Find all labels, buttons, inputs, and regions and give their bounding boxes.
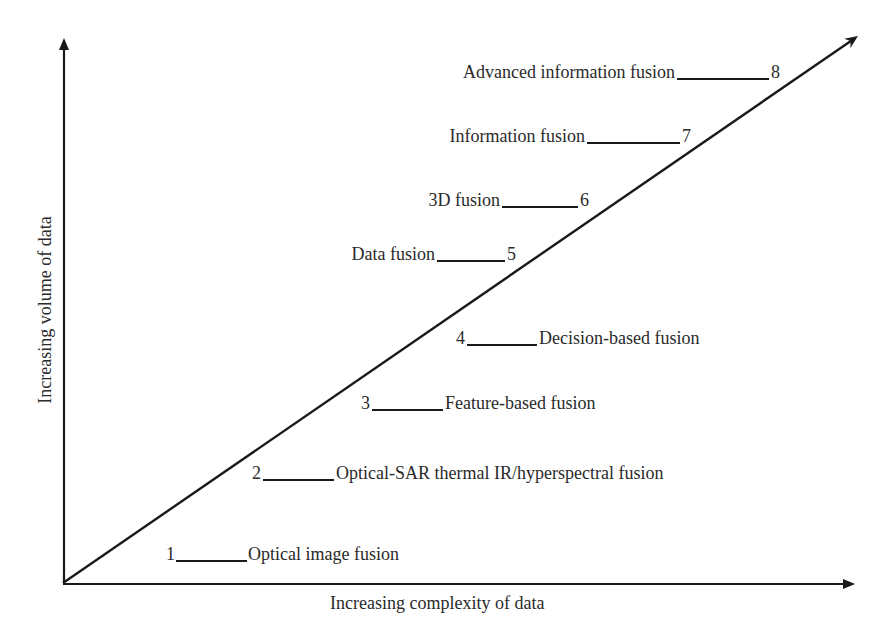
- diagram-graphics: [0, 0, 889, 644]
- y-axis-arrowhead-icon: [59, 38, 69, 50]
- stage-5-label: Data fusion: [352, 245, 435, 263]
- stage-leader-lines: [176, 79, 769, 561]
- stage-3-number: 3: [361, 394, 370, 412]
- stage-6-label: 3D fusion: [429, 191, 501, 209]
- stage-5-number: 5: [507, 245, 516, 263]
- x-axis-label: Increasing complexity of data: [330, 594, 544, 612]
- stage-7-number: 7: [682, 127, 691, 145]
- stage-7-label: Information fusion: [450, 127, 585, 145]
- stage-2-number: 2: [252, 464, 261, 482]
- diagonal-line: [63, 39, 853, 583]
- stage-1-number: 1: [166, 545, 175, 563]
- fusion-levels-diagram: 1Optical image fusion2Optical-SAR therma…: [0, 0, 889, 644]
- stage-8-label: Advanced information fusion: [463, 63, 675, 81]
- stage-4-number: 4: [456, 329, 465, 347]
- stage-2-label: Optical-SAR thermal IR/hyperspectral fus…: [336, 464, 663, 482]
- x-axis-arrowhead-icon: [843, 579, 855, 589]
- diagonal-arrowhead-icon: [844, 36, 858, 48]
- y-axis-label: Increasing volume of data: [35, 216, 53, 403]
- stage-3-label: Feature-based fusion: [445, 394, 595, 412]
- stage-8-number: 8: [771, 63, 780, 81]
- stage-1-label: Optical image fusion: [248, 545, 399, 563]
- diagonal-progression-arrow: [63, 36, 858, 583]
- stage-4-label: Decision-based fusion: [539, 329, 699, 347]
- stage-6-number: 6: [580, 191, 589, 209]
